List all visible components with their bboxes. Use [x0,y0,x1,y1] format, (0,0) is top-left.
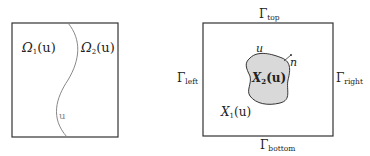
omega1-label: Ω1(u) [22,41,56,56]
x2-symbol: X [252,71,261,85]
x2-arg: (u) [266,71,286,85]
omega1-symbol: Ω [22,40,33,55]
gamma-left-sub: left [185,77,198,86]
omega2-symbol: Ω [81,40,92,55]
x2-label: X2(u) [252,72,286,85]
boundary-u-label: u [256,43,263,54]
x1-arg: (u) [234,105,251,119]
gamma-bottom-sub: bottom [268,144,295,153]
gamma-top-label: Γtop [259,8,280,22]
interface-u-label: u [59,111,65,121]
gamma-right-label: Γright [336,72,363,86]
omega2-label: Ω2(u) [81,41,115,56]
gamma-left-label: Γleft [177,72,198,86]
gamma-top-sub: top [267,13,279,22]
gamma-right-sub: right [344,77,363,86]
omega1-arg: (u) [37,40,56,55]
gamma-bottom-label: Γbottom [260,139,295,153]
omega2-arg: (u) [96,40,115,55]
x1-label: X1(u) [221,106,251,120]
x1-symbol: X [221,105,230,119]
normal-n-label: n [290,57,297,68]
